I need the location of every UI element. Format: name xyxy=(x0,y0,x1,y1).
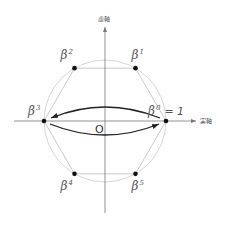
label-b0: β0= 1 xyxy=(147,104,184,118)
arrow-b3-to-b0 xyxy=(50,124,159,135)
label-b4: β4 xyxy=(60,179,73,193)
label-b1: β1 xyxy=(131,48,144,62)
complex-plane-diagram: 実軸 虚軸 O β0= 1β1β2β3β4β5 xyxy=(0,0,226,227)
origin-label: O xyxy=(95,123,104,136)
point-b1 xyxy=(133,66,138,71)
arrow-b0-to-b3 xyxy=(51,107,160,118)
point-b4 xyxy=(72,172,77,177)
point-b2 xyxy=(72,66,77,71)
label-b5: β5 xyxy=(131,179,145,193)
real-axis-label: 実軸 xyxy=(200,117,212,125)
imaginary-axis-label: 虚軸 xyxy=(98,15,110,23)
point-b3 xyxy=(42,119,47,124)
point-b5 xyxy=(133,172,138,177)
label-b3: β3 xyxy=(27,104,41,118)
point-b0 xyxy=(164,119,169,124)
label-b2: β2 xyxy=(60,48,74,62)
